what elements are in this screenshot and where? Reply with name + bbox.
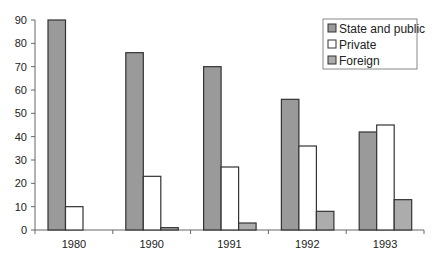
y-tick-label: 10 [15, 201, 27, 213]
y-axis: 0102030405060708090 [15, 14, 35, 236]
legend-label-private: Private [339, 38, 377, 52]
y-tick-label: 80 [15, 37, 27, 49]
y-tick-label: 90 [15, 14, 27, 26]
bar-state-1991 [204, 67, 222, 230]
bar-state-1992 [281, 99, 299, 230]
y-tick-label: 60 [15, 84, 27, 96]
x-tick-label: 1993 [373, 238, 397, 250]
y-tick-label: 0 [21, 224, 27, 236]
legend-swatch-private [328, 40, 336, 48]
y-tick-label: 20 [15, 177, 27, 189]
bar-private-1991 [221, 167, 239, 230]
legend-item-state: State and public [328, 22, 425, 36]
y-tick-label: 70 [15, 61, 27, 73]
legend-label-foreign: Foreign [339, 54, 380, 68]
bar-state-1990 [126, 53, 144, 230]
x-tick-label: 1980 [62, 238, 86, 250]
bar-private-1980 [66, 207, 84, 230]
x-tick-label: 1991 [217, 238, 241, 250]
bar-private-1992 [299, 146, 317, 230]
y-tick-label: 30 [15, 154, 27, 166]
bar-chart: 0102030405060708090 19801990199119921993… [0, 0, 437, 264]
bar-private-1993 [377, 125, 395, 230]
bar-foreign-1990 [161, 228, 179, 230]
legend: State and public Private Foreign [323, 19, 425, 69]
legend-label-state: State and public [339, 22, 425, 36]
x-tick-label: 1990 [139, 238, 163, 250]
bar-private-1990 [143, 176, 161, 230]
bar-foreign-1993 [394, 200, 412, 230]
bar-state-1980 [48, 20, 66, 230]
legend-swatch-foreign [328, 56, 336, 64]
y-tick-label: 40 [15, 131, 27, 143]
bar-foreign-1991 [239, 223, 257, 230]
y-tick-label: 50 [15, 107, 27, 119]
x-tick-label: 1992 [295, 238, 319, 250]
x-axis: 19801990199119921993 [35, 230, 424, 250]
bar-state-1993 [359, 132, 377, 230]
legend-swatch-state [328, 24, 336, 32]
bar-foreign-1992 [316, 211, 334, 230]
